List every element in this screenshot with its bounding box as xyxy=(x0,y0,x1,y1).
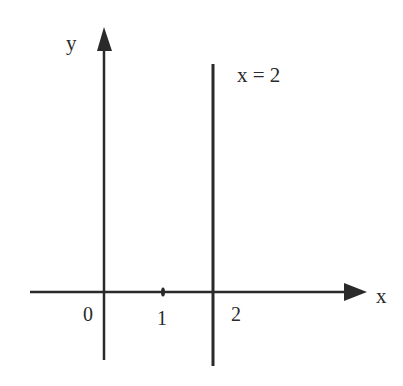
tick-label-0: 0 xyxy=(83,303,93,325)
tick-mark-1 xyxy=(161,288,165,297)
y-axis-arrowhead-icon xyxy=(97,27,112,51)
x-axis-arrowhead-icon xyxy=(344,283,367,301)
y-axis-label: y xyxy=(66,31,77,55)
line-equation-label: x = 2 xyxy=(237,63,280,87)
tick-label-2: 2 xyxy=(231,303,241,325)
tick-label-1: 1 xyxy=(157,307,167,329)
x-axis-label: x xyxy=(376,284,387,308)
coordinate-diagram: y x 0 1 2 x = 2 xyxy=(0,0,403,386)
